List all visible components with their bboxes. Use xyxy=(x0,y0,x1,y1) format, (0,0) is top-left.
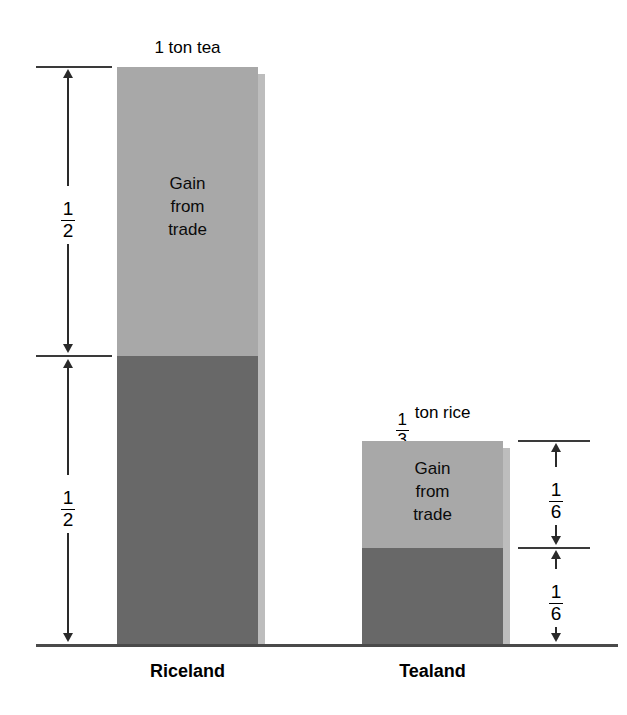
tealand-gain-line-1: Gain xyxy=(362,457,503,480)
right-lower-fraction: 1 6 xyxy=(549,582,564,624)
left-upper-fraction-numerator: 1 xyxy=(61,199,76,219)
riceland-title-text: 1 ton tea xyxy=(154,38,220,57)
right-lower-fraction-numerator: 1 xyxy=(549,582,564,602)
left-upper-arrow-up-icon xyxy=(63,69,73,78)
right-lower-arrow-down-icon xyxy=(551,633,561,642)
right-upper-fraction-numerator: 1 xyxy=(549,480,564,500)
tealand-axis-caption: Tealand xyxy=(355,661,510,682)
right-tick-top xyxy=(518,440,590,442)
riceland-gain-line-1: Gain xyxy=(117,172,258,195)
riceland-gain-line-3: trade xyxy=(117,218,258,241)
left-upper-fraction: 1 2 xyxy=(61,199,76,241)
right-upper-arrow-up-icon xyxy=(551,443,561,452)
riceland-segment-own-production[interactable] xyxy=(117,356,258,645)
left-lower-dimension-value: 1 2 xyxy=(38,475,98,533)
right-tick-middle xyxy=(518,547,590,549)
left-upper-arrow-down-icon xyxy=(63,344,73,353)
riceland-gain-line-2: from xyxy=(117,195,258,218)
left-upper-dimension-value: 1 2 xyxy=(38,186,98,244)
tealand-gain-line-3: trade xyxy=(362,503,503,526)
right-lower-arrow-up-icon xyxy=(551,550,561,559)
riceland-gain-from-trade-label: Gain from trade xyxy=(117,172,258,241)
right-upper-fraction: 1 6 xyxy=(549,480,564,522)
right-lower-dimension-value: 1 6 xyxy=(526,569,586,627)
left-lower-arrow-up-icon xyxy=(63,359,73,368)
right-upper-arrow-down-icon xyxy=(551,536,561,545)
tealand-caption-text: Tealand xyxy=(399,661,466,681)
chart-canvas: 1 ton tea Gain from trade Riceland 1 3 t… xyxy=(0,0,627,715)
tealand-title-suffix: ton rice xyxy=(415,403,471,422)
tealand-title-fraction-numerator: 1 xyxy=(396,411,409,429)
left-upper-fraction-denominator: 2 xyxy=(61,220,76,241)
left-lower-fraction-numerator: 1 xyxy=(61,488,76,508)
riceland-axis-caption: Riceland xyxy=(110,661,265,682)
left-lower-arrow-down-icon xyxy=(63,633,73,642)
riceland-caption-text: Riceland xyxy=(150,661,225,681)
baseline-axis xyxy=(36,644,618,647)
tealand-gain-line-2: from xyxy=(362,480,503,503)
right-upper-dimension-value: 1 6 xyxy=(526,467,586,525)
left-tick-top xyxy=(36,66,112,68)
right-lower-fraction-denominator: 6 xyxy=(549,603,564,624)
tealand-segment-own-production[interactable] xyxy=(362,548,503,645)
right-upper-fraction-denominator: 6 xyxy=(549,501,564,522)
left-lower-fraction-denominator: 2 xyxy=(61,509,76,530)
riceland-bar-title: 1 ton tea xyxy=(117,38,258,58)
left-tick-middle xyxy=(36,355,112,357)
tealand-gain-from-trade-label: Gain from trade xyxy=(362,457,503,526)
left-lower-fraction: 1 2 xyxy=(61,488,76,530)
